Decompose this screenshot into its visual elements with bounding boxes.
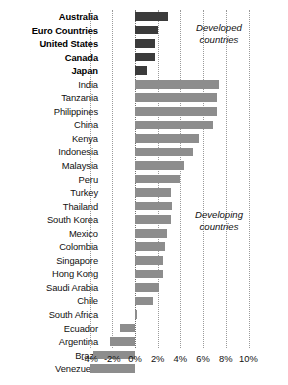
annotation-developed-line1: Developed bbox=[196, 22, 242, 34]
chart-row: South Africa bbox=[0, 308, 288, 322]
bar bbox=[135, 66, 147, 75]
chart-row: Singapore bbox=[0, 254, 288, 268]
bar-track bbox=[0, 186, 288, 200]
bar bbox=[135, 134, 199, 143]
chart-row: Thailand bbox=[0, 200, 288, 214]
x-tick-label: 10% bbox=[239, 352, 258, 365]
bar-track bbox=[0, 24, 288, 38]
chart-row: South Korea bbox=[0, 213, 288, 227]
bar bbox=[135, 121, 213, 130]
bar bbox=[135, 53, 155, 62]
bar-track bbox=[0, 213, 288, 227]
bar-rows: AustraliaEuro CountriesUnited StatesCana… bbox=[0, 10, 288, 376]
chart-row: China bbox=[0, 118, 288, 132]
chart-row: Australia bbox=[0, 10, 288, 24]
bar-track bbox=[0, 308, 288, 322]
x-axis-tick-labels: -4%-2%0%2%4%6%8%10% bbox=[0, 352, 288, 372]
chart-row: Colombia bbox=[0, 240, 288, 254]
bar bbox=[135, 270, 163, 279]
chart-row: Euro Countries bbox=[0, 24, 288, 38]
bar-track bbox=[0, 105, 288, 119]
bar-track bbox=[0, 51, 288, 65]
x-tick-label: 0% bbox=[128, 352, 142, 365]
bar bbox=[135, 148, 193, 157]
chart-row: Saudi Arabia bbox=[0, 281, 288, 295]
chart-row: Mexico bbox=[0, 227, 288, 241]
bar bbox=[135, 242, 165, 251]
annotation-developed: Developed countries bbox=[196, 22, 242, 47]
chart-row: Chile bbox=[0, 294, 288, 308]
bar-track bbox=[0, 173, 288, 187]
x-tick-label: 4% bbox=[174, 352, 188, 365]
plot-area: AustraliaEuro CountriesUnited StatesCana… bbox=[0, 0, 288, 385]
bar-track bbox=[0, 200, 288, 214]
bar-track bbox=[0, 78, 288, 92]
bar bbox=[135, 26, 158, 35]
bar-track bbox=[0, 294, 288, 308]
bar bbox=[135, 202, 172, 211]
x-tick-label: -2% bbox=[104, 352, 121, 365]
annotation-developing-line1: Developing bbox=[195, 209, 243, 221]
chart-row: Canada bbox=[0, 51, 288, 65]
bar-track bbox=[0, 240, 288, 254]
bar-track bbox=[0, 145, 288, 159]
chart-row: Kenya bbox=[0, 132, 288, 146]
bar-track bbox=[0, 118, 288, 132]
bar-track bbox=[0, 254, 288, 268]
bar bbox=[135, 39, 155, 48]
bar bbox=[135, 310, 137, 319]
chart-row: Turkey bbox=[0, 186, 288, 200]
bar-track bbox=[0, 322, 288, 336]
bar-chart: AustraliaEuro CountriesUnited StatesCana… bbox=[0, 0, 288, 385]
chart-row: Ecuador bbox=[0, 322, 288, 336]
bar bbox=[135, 283, 159, 292]
bar-track bbox=[0, 10, 288, 24]
x-tick-label: 6% bbox=[196, 352, 210, 365]
bar bbox=[135, 188, 171, 197]
bar bbox=[110, 337, 135, 346]
bar-track bbox=[0, 159, 288, 173]
chart-row: Argentina bbox=[0, 335, 288, 349]
bar-track bbox=[0, 91, 288, 105]
chart-row: Peru bbox=[0, 173, 288, 187]
bar bbox=[135, 93, 217, 102]
chart-row: India bbox=[0, 78, 288, 92]
chart-row: Philippines bbox=[0, 105, 288, 119]
annotation-developing-line2: countries bbox=[195, 221, 243, 233]
annotation-developing: Developing countries bbox=[195, 209, 243, 234]
bar-track bbox=[0, 132, 288, 146]
bar bbox=[135, 229, 167, 238]
bar-track bbox=[0, 281, 288, 295]
bar-track bbox=[0, 37, 288, 51]
bar bbox=[135, 175, 180, 184]
bar-track bbox=[0, 64, 288, 78]
chart-row: United States bbox=[0, 37, 288, 51]
bar bbox=[135, 107, 217, 116]
bar bbox=[135, 12, 168, 21]
x-tick-label: 2% bbox=[151, 352, 165, 365]
bar bbox=[135, 215, 171, 224]
chart-row: Japan bbox=[0, 64, 288, 78]
bar-track bbox=[0, 227, 288, 241]
chart-row: Indonesia bbox=[0, 145, 288, 159]
bar bbox=[135, 297, 153, 306]
x-tick-label: -4% bbox=[81, 352, 98, 365]
bar-track bbox=[0, 267, 288, 281]
annotation-developed-line2: countries bbox=[196, 34, 242, 46]
bar bbox=[135, 256, 163, 265]
bar-track bbox=[0, 335, 288, 349]
bar bbox=[135, 161, 184, 170]
bar bbox=[135, 80, 219, 89]
x-tick-label: 8% bbox=[219, 352, 233, 365]
chart-row: Hong Kong bbox=[0, 267, 288, 281]
bar bbox=[120, 324, 135, 333]
chart-row: Tanzania bbox=[0, 91, 288, 105]
chart-row: Malaysia bbox=[0, 159, 288, 173]
